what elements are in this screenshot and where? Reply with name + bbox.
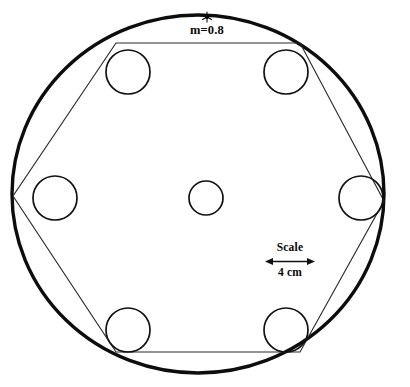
central-body bbox=[189, 181, 223, 215]
arrow-right-icon bbox=[307, 258, 315, 265]
figure-canvas: m=0.8 Scale 4 cm bbox=[0, 0, 410, 387]
scale-title: Scale bbox=[277, 241, 304, 253]
satellite-bottom-left bbox=[106, 308, 150, 352]
satellite-top-left bbox=[106, 50, 150, 94]
satellite-top-right bbox=[264, 50, 308, 94]
outer-ring bbox=[12, 15, 384, 373]
mass-ratio-label: m=0.8 bbox=[190, 23, 224, 37]
scale-legend: Scale 4 cm bbox=[265, 241, 315, 278]
scale-value-label: 4 cm bbox=[278, 266, 302, 278]
satellite-right bbox=[339, 176, 383, 220]
arrow-left-icon bbox=[265, 258, 273, 265]
diagram-svg: m=0.8 Scale 4 cm bbox=[0, 0, 410, 387]
scale-bar-icon bbox=[265, 258, 315, 265]
inscribed-hexagon bbox=[13, 43, 384, 352]
satellite-left bbox=[33, 176, 77, 220]
satellite-bottom-right bbox=[264, 308, 308, 352]
